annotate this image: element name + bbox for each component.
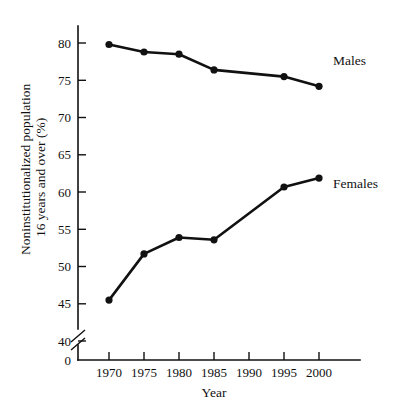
y-tick-label-55: 55: [58, 222, 71, 237]
data-point: [210, 66, 217, 73]
chart-figure: 80 75 70 65 60 55 50 45 40 0 1970 1975 1…: [0, 0, 402, 413]
y-tick-label-0: 0: [65, 353, 72, 368]
y-tick-label-60: 60: [58, 185, 71, 200]
x-tick-label-1985: 1985: [201, 365, 227, 380]
x-tick-label-1975: 1975: [131, 365, 157, 380]
x-axis-tick-labels: 1970 1975 1980 1985 1990 1995 2000: [96, 365, 332, 380]
y-tick-label-40: 40: [58, 334, 71, 349]
data-point: [140, 48, 147, 55]
line-chart: 80 75 70 65 60 55 50 45 40 0 1970 1975 1…: [0, 0, 402, 413]
y-tick-label-65: 65: [58, 147, 71, 162]
x-tick-label-2000: 2000: [306, 365, 332, 380]
x-axis-title: Year: [202, 385, 227, 400]
data-point: [280, 73, 287, 80]
x-tick-label-1980: 1980: [166, 365, 192, 380]
data-point: [210, 236, 217, 243]
data-point: [315, 83, 322, 90]
y-tick-label-80: 80: [58, 36, 71, 51]
series-label-females: Females: [333, 176, 378, 191]
x-tick-label-1995: 1995: [271, 365, 297, 380]
data-point: [280, 183, 287, 190]
y-tick-label-75: 75: [58, 73, 71, 88]
data-point: [175, 51, 182, 58]
y-tick-label-45: 45: [58, 296, 71, 311]
data-point: [105, 297, 112, 304]
x-tick-label-1990: 1990: [236, 365, 262, 380]
data-point: [105, 41, 112, 48]
data-point: [175, 234, 182, 241]
series-label-males: Males: [333, 53, 366, 68]
y-tick-label-50: 50: [58, 259, 71, 274]
data-point: [315, 175, 322, 182]
data-point: [140, 250, 147, 257]
x-tick-label-1970: 1970: [96, 365, 122, 380]
y-axis-title-line-2: 16 years and over (%): [33, 118, 48, 237]
y-tick-label-70: 70: [58, 110, 71, 125]
y-axis-title-line-1: Noninstitutionalized population: [18, 83, 33, 255]
